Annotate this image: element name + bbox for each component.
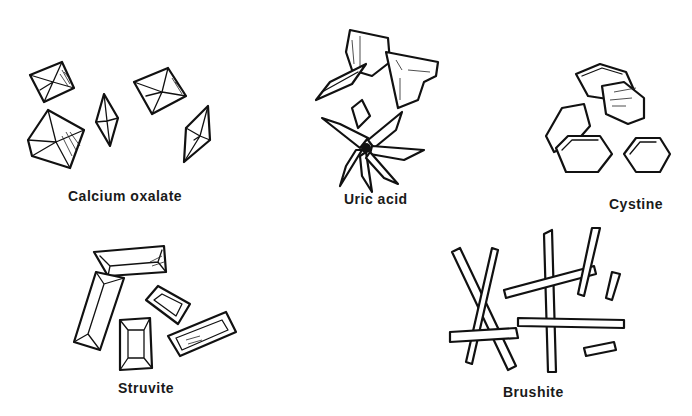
cystine-hex-4 <box>556 136 612 172</box>
label-uric-acid: Uric acid <box>344 191 408 207</box>
brushite-crystals <box>450 228 624 372</box>
brushite-rod-4 <box>544 230 556 372</box>
brushite-rod-7 <box>518 318 624 328</box>
label-cystine: Cystine <box>609 196 663 212</box>
uric-acid-crystals <box>316 30 438 192</box>
brushite-rod-6 <box>578 228 600 296</box>
oxalate-crystal-3 <box>96 94 118 146</box>
label-struvite: Struvite <box>118 380 174 396</box>
calcium-oxalate-crystals <box>28 62 210 168</box>
struvite-prism-1 <box>94 246 166 276</box>
struvite-prism-3 <box>146 286 190 324</box>
brushite-rod-9 <box>584 342 616 356</box>
cystine-hex-2 <box>602 82 644 124</box>
oxalate-crystal-2 <box>28 110 84 168</box>
uric-plate-2 <box>386 52 438 108</box>
label-calcium-oxalate: Calcium oxalate <box>68 188 182 204</box>
struvite-prism-2 <box>74 272 124 350</box>
crystal-illustration <box>0 0 692 416</box>
oxalate-crystal-5 <box>184 106 210 162</box>
cystine-crystals <box>546 64 670 172</box>
brushite-rod-2 <box>466 248 498 364</box>
struvite-crystals <box>74 246 236 370</box>
uric-rosette <box>322 100 424 192</box>
brushite-rod-8 <box>606 272 620 300</box>
struvite-prism-4 <box>120 318 152 370</box>
brushite-rod-3 <box>450 328 518 342</box>
crystal-figure: Calcium oxalate Uric acid Cystine Struvi… <box>0 0 692 416</box>
label-brushite: Brushite <box>503 384 564 400</box>
oxalate-crystal-4 <box>134 68 186 114</box>
cystine-hex-5 <box>624 138 670 172</box>
oxalate-crystal-1 <box>30 62 74 102</box>
uric-plate-1 <box>346 30 390 76</box>
